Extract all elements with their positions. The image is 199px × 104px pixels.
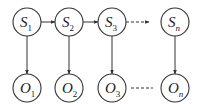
observation-node-on: On — [161, 74, 189, 102]
observation-node-o2: O2 — [55, 74, 83, 102]
state-node-s2: S2 — [55, 8, 83, 36]
nodes-group: S1S2S3SnO1O2O3On — [13, 8, 189, 102]
observation-node-o3: O3 — [98, 74, 126, 102]
state-node-sn: Sn — [161, 8, 189, 36]
state-node-s3: S3 — [98, 8, 126, 36]
hmm-diagram: S1S2S3SnO1O2O3On — [0, 0, 199, 104]
observation-node-o1: O1 — [13, 74, 41, 102]
state-node-s1: S1 — [13, 8, 41, 36]
edges-group — [27, 22, 175, 88]
